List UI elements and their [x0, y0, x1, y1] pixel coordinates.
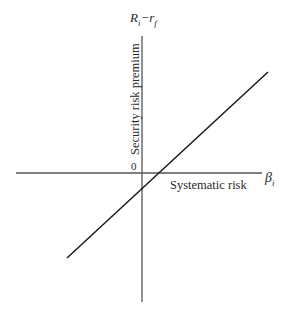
y-axis-symbol: Ri−rf [130, 10, 157, 28]
x-axis-symbol: βi [265, 170, 275, 188]
y-symbol-minus: − [140, 10, 149, 25]
x-symbol-sub-i: i [272, 178, 275, 188]
x-symbol-beta: β [265, 170, 272, 185]
y-symbol-r: R [130, 10, 138, 25]
y-axis-caption: Security risk premium [128, 43, 143, 155]
security-market-line [67, 72, 268, 258]
x-axis-caption: Systematic risk [170, 178, 247, 193]
y-symbol-sub-f: f [154, 18, 157, 28]
origin-label: 0 [131, 160, 137, 172]
diagram-svg [0, 0, 294, 318]
diagram-canvas: Ri−rf βi 0 Systematic risk Security risk… [0, 0, 294, 318]
